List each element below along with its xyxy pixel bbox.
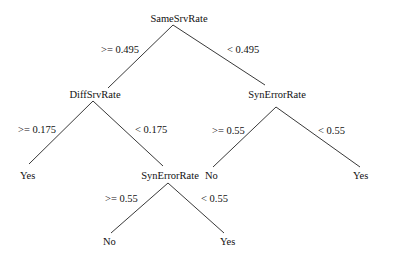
leaf-no: No bbox=[205, 170, 218, 182]
edge-syn-right-right bbox=[276, 107, 360, 167]
leaf-no: No bbox=[103, 236, 116, 248]
leaf-yes: Yes bbox=[20, 170, 35, 182]
leaf-yes: Yes bbox=[353, 170, 368, 182]
node-diffsrvrate: DiffSrvRate bbox=[69, 89, 120, 101]
edge-label-syn-right-right: < 0.55 bbox=[318, 125, 345, 137]
node-synerrorrate-bottom: SynErrorRate bbox=[141, 170, 199, 182]
edge-syn-bottom-left bbox=[111, 183, 168, 233]
edge-syn-right-left bbox=[213, 107, 276, 167]
tree-edges bbox=[0, 0, 418, 259]
edge-label-root-right: < 0.495 bbox=[227, 44, 259, 56]
node-synerrorrate-right: SynErrorRate bbox=[248, 89, 306, 101]
edge-label-syn-bottom-right: < 0.55 bbox=[201, 193, 228, 205]
edge-label-syn-right-left: >= 0.55 bbox=[212, 125, 245, 137]
edge-label-syn-bottom-left: >= 0.55 bbox=[105, 193, 138, 205]
edge-syn-bottom-right bbox=[168, 183, 224, 233]
edge-root-left bbox=[108, 25, 173, 88]
edge-label-diff-left: >= 0.175 bbox=[18, 124, 56, 136]
leaf-yes: Yes bbox=[220, 236, 235, 248]
edge-label-diff-right: < 0.175 bbox=[135, 124, 167, 136]
edge-label-root-left: >= 0.495 bbox=[101, 44, 139, 56]
node-root: SameSrvRate bbox=[150, 13, 207, 25]
